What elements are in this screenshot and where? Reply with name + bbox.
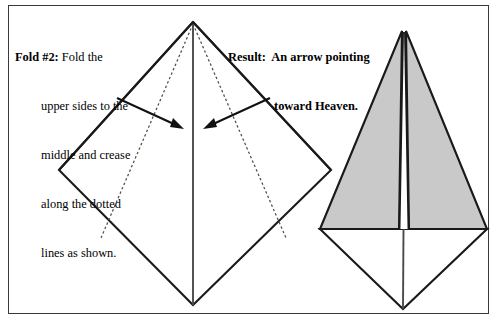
- fold-instruction-line-2: upper sides to the: [15, 98, 130, 114]
- fold-instruction-line-5: lines as shown.: [15, 245, 130, 261]
- fold-instruction-line-3: middle and crease: [15, 147, 130, 163]
- diagram-page: Fold #2: Fold the upper sides to the mid…: [0, 0, 497, 321]
- fold-instruction-label: Fold #2:: [15, 50, 59, 64]
- fold-instruction-line-1: Fold #2: Fold the: [15, 49, 130, 65]
- fold-instruction-text: Fold #2: Fold the upper sides to the mid…: [15, 16, 130, 294]
- arrow-tail-center-line: [403, 229, 404, 309]
- fold-instruction-line-1-rest: Fold the: [59, 50, 103, 64]
- result-caption-line-1-rest: An arrow pointing: [266, 50, 370, 64]
- fold-instruction-line-4: along the dotted: [15, 196, 130, 212]
- arrow-flap-right: [406, 31, 487, 229]
- result-caption-line-2: toward Heaven.: [228, 98, 370, 114]
- result-caption-text: Result: An arrow pointing toward Heaven.: [228, 16, 370, 147]
- result-caption-line-1: Result: An arrow pointing: [228, 49, 370, 65]
- result-caption-label: Result:: [228, 50, 266, 64]
